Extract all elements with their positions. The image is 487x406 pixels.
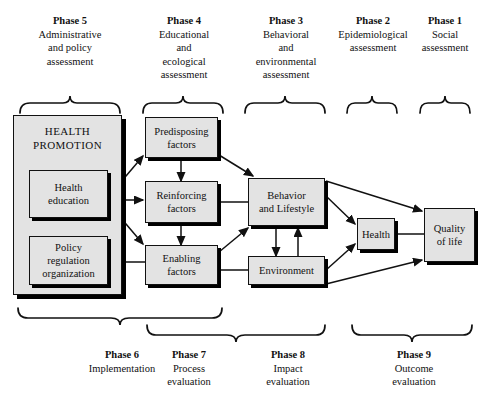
predisposing-line-1: Predisposing: [154, 125, 208, 138]
health-promotion-line-1: HEALTH: [14, 124, 121, 138]
quality-of-life-line-1: Quality: [434, 222, 466, 235]
arrow-behavior-to-health: [326, 196, 355, 224]
diagram-canvas: Phase 5 Administrative and policy assess…: [0, 0, 487, 406]
behavior-label: Behavior and Lifestyle: [259, 189, 314, 215]
bottom-braces: [18, 308, 472, 342]
behavior-line-2: and Lifestyle: [259, 202, 314, 215]
predisposing-label: Predisposing factors: [154, 125, 208, 151]
node-quality-of-life[interactable]: Quality of life: [424, 208, 475, 262]
arrow-behavior-to-quality-of-life: [326, 181, 422, 211]
brace-top-phase-4: [143, 96, 223, 113]
enabling-label: Enabling factors: [163, 252, 201, 278]
brace-top-phase-2: [347, 96, 397, 113]
node-enabling-factors[interactable]: Enabling factors: [145, 245, 218, 285]
brace-top-phase-5: [20, 96, 120, 113]
policy-line-1: Policy: [42, 241, 94, 254]
reinforcing-label: Reinforcing factors: [156, 189, 206, 215]
health-education-line-2: education: [48, 194, 89, 207]
arrow-enabling-to-behavior: [219, 228, 248, 252]
arrow-predisposing-to-behavior: [219, 155, 253, 176]
enabling-line-2: factors: [163, 265, 201, 278]
brace-bottom-phase-7-8: [147, 325, 325, 342]
quality-of-life-line-2: of life: [434, 235, 466, 248]
brace-top-phase-3: [245, 96, 325, 113]
health-promotion-label: HEALTH PROMOTION: [14, 124, 121, 152]
brace-bottom-phase-9: [352, 325, 472, 342]
behavior-line-1: Behavior: [259, 189, 314, 202]
brace-top-phase-1: [420, 96, 470, 113]
arrow-environment-to-health: [326, 244, 355, 270]
top-braces: [20, 96, 470, 113]
node-health-education[interactable]: Health education: [29, 170, 108, 218]
policy-label: Policy regulation organization: [42, 241, 94, 280]
reinforcing-line-2: factors: [156, 202, 206, 215]
predisposing-line-2: factors: [154, 138, 208, 151]
node-predisposing-factors[interactable]: Predisposing factors: [145, 117, 218, 158]
node-policy-regulation-organization[interactable]: Policy regulation organization: [29, 236, 108, 285]
arrow-environment-to-quality-of-life: [326, 260, 422, 284]
policy-line-2: regulation: [42, 254, 94, 267]
health-label: Health: [362, 228, 390, 241]
health-education-line-1: Health: [48, 181, 89, 194]
environment-label: Environment: [259, 264, 314, 277]
health-promotion-line-2: PROMOTION: [14, 138, 121, 152]
node-behavior-and-lifestyle[interactable]: Behavior and Lifestyle: [248, 178, 325, 226]
node-health[interactable]: Health: [357, 218, 395, 250]
health-education-label: Health education: [48, 181, 89, 207]
policy-line-3: organization: [42, 267, 94, 280]
node-reinforcing-factors[interactable]: Reinforcing factors: [145, 181, 218, 223]
brace-bottom-phase-6: [18, 308, 222, 325]
enabling-line-1: Enabling: [163, 252, 201, 265]
node-environment[interactable]: Environment: [248, 256, 325, 285]
reinforcing-line-1: Reinforcing: [156, 189, 206, 202]
quality-of-life-label: Quality of life: [434, 222, 466, 248]
